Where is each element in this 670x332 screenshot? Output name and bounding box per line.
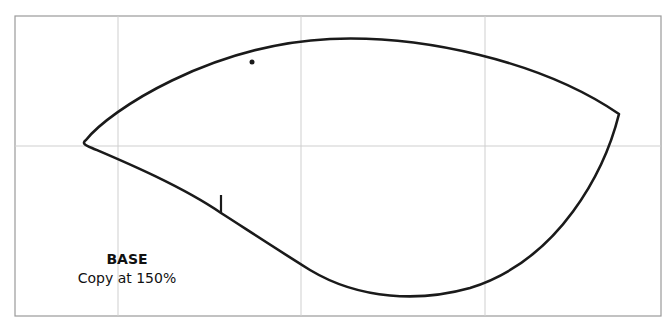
piece-name: BASE [60,250,194,268]
piece-label: BASE Copy at 150% [60,250,194,288]
scale-instruction: Copy at 150% [60,268,194,288]
placement-dot-marker [250,60,255,65]
